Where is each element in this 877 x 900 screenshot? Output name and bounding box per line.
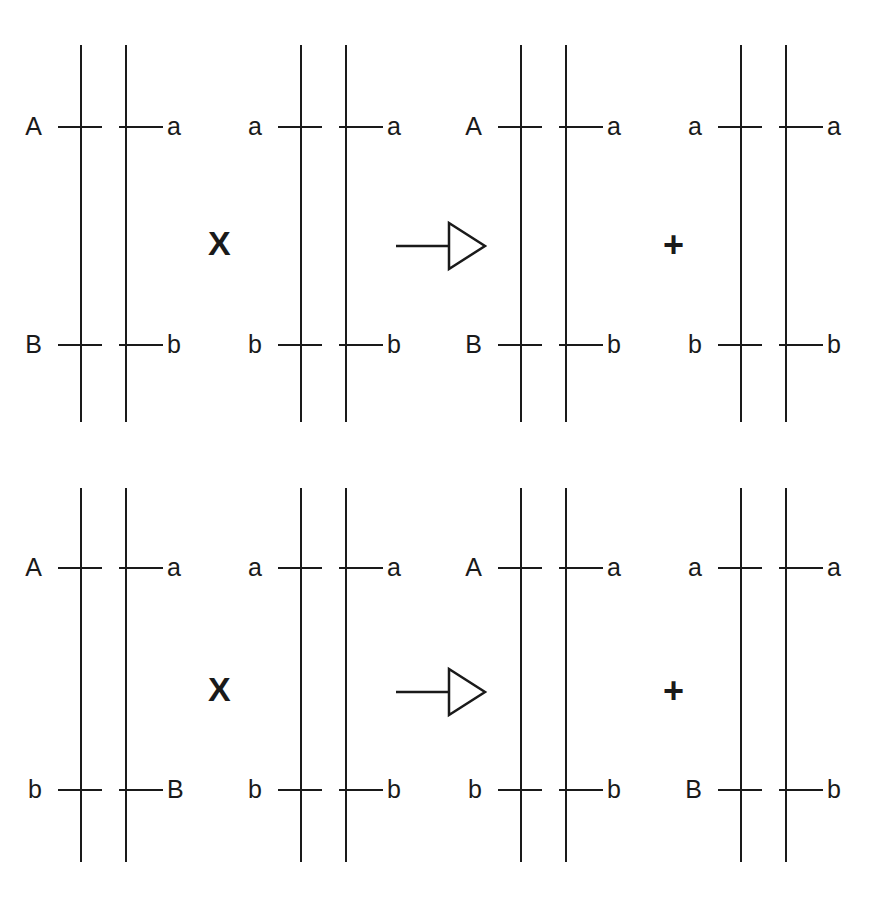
locus-tick-left [718,789,762,791]
allele-label-right: a [827,114,841,139]
locus-tick-right [779,344,823,346]
locus-tick-right [559,126,603,128]
locus-tick-left [718,567,762,569]
locus-tick-left [498,126,542,128]
chromatid-right [785,45,787,422]
locus-tick-left [58,126,102,128]
locus-tick-right [119,567,163,569]
chromatid-left [80,488,82,862]
chromosome-pair-r1-offspring-1: A a B b [520,45,565,422]
chromosome-pair-r1-parent-1: A a B b [80,45,125,422]
allele-label-right: B [167,777,184,802]
chromatid-right [125,45,127,422]
cross-operator-row-2: X [208,672,231,706]
chromatid-left [300,45,302,422]
allele-label-left: a [248,555,262,580]
allele-label-left: A [25,114,42,139]
allele-label-left: B [685,777,702,802]
locus-tick-right [559,789,603,791]
chromatid-left [300,488,302,862]
locus-tick-right [119,789,163,791]
allele-label-left: B [465,332,482,357]
allele-label-left: b [688,332,702,357]
locus-tick-right [339,789,383,791]
locus-tick-right [119,126,163,128]
allele-label-left: b [28,777,42,802]
locus-tick-right [119,344,163,346]
locus-tick-left [278,126,322,128]
produces-arrow-row-2 [396,664,488,720]
cross-operator-row-1: X [208,226,231,260]
locus-tick-right [559,567,603,569]
chromosome-pair-r2-offspring-1: A a b b [520,488,565,862]
locus-tick-right [339,126,383,128]
allele-label-left: b [248,777,262,802]
chromatid-left [520,488,522,862]
chromosome-pair-r2-parent-1: A a b B [80,488,125,862]
allele-label-left: a [248,114,262,139]
chromatid-right [565,45,567,422]
locus-tick-left [498,344,542,346]
chromatid-left [740,488,742,862]
chromosome-pair-r2-parent-2: a a b b [300,488,345,862]
chromatid-right [345,45,347,422]
locus-tick-left [498,789,542,791]
locus-tick-left [718,344,762,346]
allele-label-left: A [465,555,482,580]
locus-tick-right [339,567,383,569]
locus-tick-right [339,344,383,346]
locus-tick-right [559,344,603,346]
locus-tick-left [278,344,322,346]
allele-label-right: b [607,332,621,357]
allele-label-left: b [248,332,262,357]
allele-label-right: b [607,777,621,802]
allele-label-right: a [607,114,621,139]
allele-label-right: b [827,777,841,802]
chromatid-left [520,45,522,422]
locus-tick-left [58,344,102,346]
allele-label-left: a [688,114,702,139]
locus-tick-right [779,126,823,128]
plus-operator-row-1: + [663,227,684,263]
allele-label-left: A [465,114,482,139]
chromatid-left [80,45,82,422]
chromatid-right [785,488,787,862]
locus-tick-left [718,126,762,128]
allele-label-right: a [167,555,181,580]
allele-label-right: b [387,332,401,357]
chromatid-right [125,488,127,862]
produces-arrow-row-1 [396,218,488,274]
allele-label-right: a [827,555,841,580]
chromosome-pair-r1-parent-2: a a b b [300,45,345,422]
locus-tick-left [278,567,322,569]
allele-label-right: b [387,777,401,802]
allele-label-left: b [468,777,482,802]
chromatid-right [565,488,567,862]
allele-label-right: b [167,332,181,357]
chromatid-left [740,45,742,422]
allele-label-right: a [387,114,401,139]
locus-tick-left [278,789,322,791]
chromosome-pair-r1-offspring-2: a a b b [740,45,785,422]
locus-tick-left [58,567,102,569]
chromatid-right [345,488,347,862]
locus-tick-right [779,567,823,569]
locus-tick-right [779,789,823,791]
allele-label-left: a [688,555,702,580]
allele-label-right: a [167,114,181,139]
allele-label-right: a [607,555,621,580]
locus-tick-left [498,567,542,569]
allele-label-right: a [387,555,401,580]
allele-label-left: B [25,332,42,357]
chromosome-pair-r2-offspring-2: a a B b [740,488,785,862]
locus-tick-left [58,789,102,791]
allele-label-right: b [827,332,841,357]
plus-operator-row-2: + [663,673,684,709]
allele-label-left: A [25,555,42,580]
diagram-canvas: A a B b X a a b b [0,0,877,900]
